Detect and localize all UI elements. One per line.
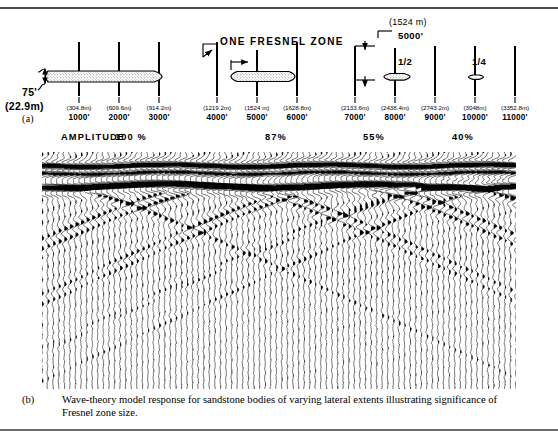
tick-metres-1: (609.6m) — [107, 104, 132, 111]
seismic-trace-fill — [377, 165, 396, 387]
seismic-trace-fill — [181, 163, 205, 388]
tick-feet-7: 8000' — [384, 113, 405, 122]
seismic-trace-fill — [510, 152, 516, 377]
tick-metres-8: (2743.2m) — [421, 104, 449, 111]
seismic-trace-fill — [338, 163, 364, 389]
tick-feet-5: 6000' — [286, 113, 307, 122]
tick-metres-2: (914.2m) — [147, 104, 172, 111]
tick-metres-0: (304.8m) — [67, 104, 92, 111]
tick-metres-9: (3048m) — [463, 104, 486, 111]
dim-callout-metres: (1524 m) — [389, 17, 427, 27]
seismic-trace-fill — [343, 163, 366, 387]
page-rule-top — [0, 7, 558, 9]
seismic-wiggle-traces — [42, 152, 516, 390]
seismic-trace — [363, 152, 392, 389]
seismic-trace-fill — [299, 163, 324, 388]
thickness-metres-label: (22.9m) — [5, 100, 44, 112]
seismic-trace-fill — [103, 165, 130, 384]
seismic-trace-fill — [410, 165, 426, 389]
tick-metres-7: (2438.4m) — [381, 104, 409, 111]
quarter-fresnel-label: 1/4 — [472, 56, 486, 67]
panel-a-geometry-diagram: 75' (22.9m) ONE FRESNEL ZONE 1/2 1/4 (15… — [0, 14, 558, 126]
panel-a-tag: (a) — [22, 113, 34, 124]
dim-callout-feet: 5000' — [398, 30, 423, 41]
panel-b-seismic-section: AMPLITUDE 100 %87%55%40% — [0, 126, 558, 396]
tick-feet-6: 7000' — [344, 113, 365, 122]
caption-text: Wave-theory model response for sandstone… — [62, 393, 514, 420]
tick-feet-9: 10000' — [462, 113, 488, 122]
tick-feet-2: 3000' — [148, 113, 169, 122]
amplitude-value-2: 55% — [363, 132, 385, 142]
tick-feet-4: 5000' — [246, 113, 267, 122]
seismic-trace-fill — [259, 165, 284, 387]
thickness-feet-label: 75' — [22, 86, 37, 98]
seismic-trace-fill — [142, 163, 170, 388]
tick-feet-0: 1000' — [68, 113, 89, 122]
tick-metres-5: (1628.8m) — [283, 104, 311, 111]
tick-metres-6: (2133.6m) — [341, 104, 369, 111]
tick-metres-4: (1524 m) — [245, 104, 270, 111]
tick-feet-1: 2000' — [108, 113, 129, 122]
seismic-trace-fill — [349, 154, 370, 383]
panel-b-tag: (b) — [22, 394, 34, 405]
tick-feet-3: 4000' — [206, 113, 227, 122]
seismic-trace-fill — [109, 157, 136, 384]
amplitude-value-1: 87% — [265, 132, 287, 142]
tick-metres-3: (1219.2m) — [203, 104, 231, 111]
page-rule-bottom — [0, 429, 558, 431]
tick-feet-10: 11000' — [502, 113, 527, 122]
one-fresnel-zone-label: ONE FRESNEL ZONE — [220, 36, 344, 47]
half-fresnel-label: 1/2 — [398, 56, 412, 67]
tick-feet-8: 9000' — [424, 113, 445, 122]
tick-metres-10: (3352.8m) — [501, 104, 529, 111]
seismic-trace-fill — [220, 165, 242, 387]
amplitude-value-0: 100 % — [115, 132, 147, 142]
amplitude-value-3: 40% — [452, 132, 474, 142]
